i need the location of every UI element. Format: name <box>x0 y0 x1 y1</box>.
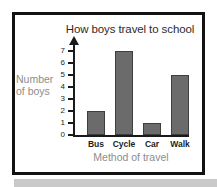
y-axis-tick <box>68 110 74 111</box>
y-axis-tick-label: 7 <box>51 47 65 55</box>
y-axis-tick-label: 6 <box>51 59 65 67</box>
y-axis-tick <box>68 134 74 135</box>
bar-bus <box>87 111 105 135</box>
y-axis-title-line-1: Number <box>16 73 68 85</box>
x-axis-title: Method of travel <box>63 151 199 163</box>
y-axis-title-line-2: of boys <box>16 85 68 97</box>
y-axis-tick <box>68 74 74 75</box>
category-label-walk: Walk <box>166 139 194 149</box>
category-label-bus: Bus <box>82 139 110 149</box>
bar-cycle <box>115 51 133 135</box>
y-axis-tick <box>68 50 74 51</box>
y-axis-tick <box>68 86 74 87</box>
y-axis-tick <box>68 122 74 123</box>
y-axis-tick <box>68 62 74 63</box>
bar-car <box>143 123 161 135</box>
plot-area: 01234567 BusCycleCarWalk Number of boys … <box>15 15 202 172</box>
x-axis-line <box>73 135 189 137</box>
page-bottom-strip <box>14 179 217 187</box>
worksheet-page: How boys travel to school 01234567 BusCy… <box>0 0 217 187</box>
y-axis-title: Number of boys <box>16 73 68 97</box>
category-label-car: Car <box>138 139 166 149</box>
chart-frame: How boys travel to school 01234567 BusCy… <box>12 12 205 175</box>
category-label-cycle: Cycle <box>110 139 138 149</box>
bar-walk <box>171 75 189 135</box>
y-axis-tick-label: 0 <box>51 131 65 139</box>
y-axis-tick <box>68 98 74 99</box>
y-axis-tick-label: 2 <box>51 107 65 115</box>
y-axis-tick-label: 1 <box>51 119 65 127</box>
